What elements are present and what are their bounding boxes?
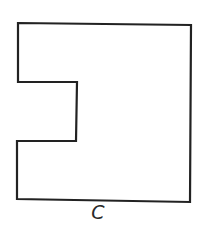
notched-square-shape <box>17 23 191 202</box>
shape-label: C <box>88 203 108 222</box>
shape-figure <box>0 0 200 232</box>
